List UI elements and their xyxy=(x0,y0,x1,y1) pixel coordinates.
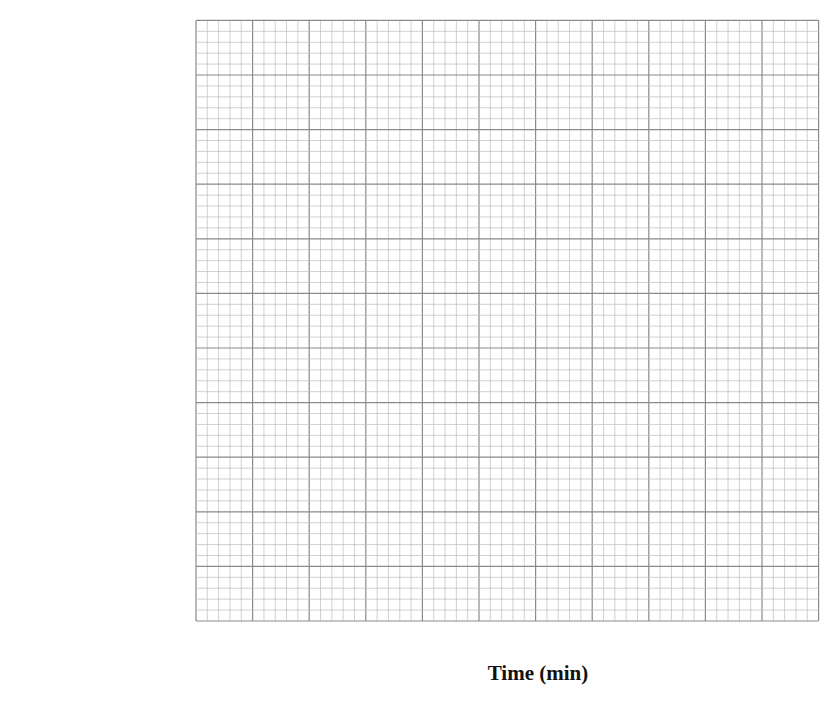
grid xyxy=(196,20,819,621)
histogram-chart: Time (min) xyxy=(0,0,836,705)
x-axis-title: Time (min) xyxy=(488,661,589,685)
